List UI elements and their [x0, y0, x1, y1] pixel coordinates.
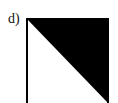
- square-diagram: [26, 18, 109, 103]
- diagonal-square-figure: [26, 18, 109, 103]
- figure-label: d): [8, 11, 20, 27]
